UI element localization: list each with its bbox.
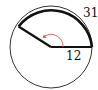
radius-upper-left bbox=[19, 27, 51, 48]
arc-length-label: 31 bbox=[83, 7, 98, 19]
highlighted-arc bbox=[19, 10, 92, 47]
radius-label: 12 bbox=[66, 50, 81, 62]
circle-diagram: 31 12 bbox=[0, 0, 98, 90]
